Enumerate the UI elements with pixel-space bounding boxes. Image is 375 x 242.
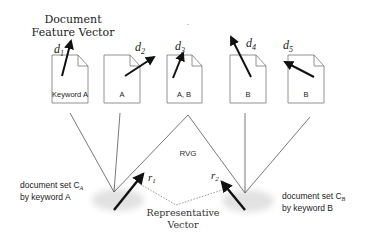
representative-label-line2: Vector [166, 219, 198, 230]
rvg-diagram: Document Feature Vector . d1 Keyword A d… [0, 0, 375, 242]
doc-label: d1 [54, 42, 64, 58]
document-d5: d5 B [283, 38, 324, 103]
title-line2: Feature Vector [32, 26, 116, 39]
cluster-a-line2: by keyword A [20, 192, 71, 202]
rvg-label: RVG [179, 149, 196, 158]
doc-label: d5 [283, 38, 293, 54]
document-d4: d4 B [230, 36, 266, 103]
cluster-b-line2: by keyword B [282, 203, 333, 213]
r2-label: r2 [211, 169, 219, 183]
title-line1: Document [44, 13, 102, 26]
document-d3: d3 A, B [167, 39, 202, 103]
representative-callout [140, 184, 222, 205]
doc-label: d3 [175, 39, 185, 55]
document-d2: d2 A [104, 40, 154, 103]
document-d1: d1 Keyword A [52, 41, 88, 103]
doc-keyword: B [245, 90, 250, 99]
cluster-a-line1: document set CA [20, 180, 84, 191]
r1-label: r1 [148, 171, 156, 185]
doc-keyword: B [303, 90, 308, 99]
doc-label: d2 [135, 40, 145, 56]
doc-keyword: Keyword A [52, 90, 88, 99]
doc-keyword: A [119, 90, 124, 99]
cluster-cloud-a [92, 189, 144, 211]
representative-label-line1: Representative [147, 207, 220, 218]
dot-mark: . [187, 18, 189, 27]
cluster-b-line1: document set CB [282, 191, 346, 202]
doc-label: d4 [246, 36, 256, 52]
doc-keyword: A, B [177, 90, 191, 99]
